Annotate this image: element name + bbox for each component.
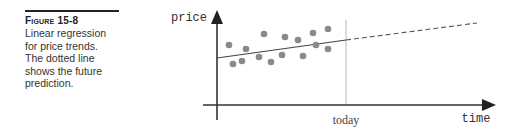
data-points [226, 26, 332, 68]
data-point [295, 37, 302, 44]
regression-chart: price time today [0, 0, 508, 133]
x-axis-label: time [462, 112, 491, 126]
y-axis-arrow-icon [211, 10, 223, 24]
data-point [279, 52, 286, 59]
x-axis-arrow-icon [482, 99, 496, 111]
today-label: today [333, 113, 360, 127]
data-point [282, 34, 289, 41]
data-point [256, 54, 263, 61]
data-point [325, 46, 332, 53]
prediction-line [346, 23, 477, 40]
data-point [300, 53, 307, 60]
data-point [239, 58, 246, 65]
data-point [325, 26, 332, 33]
data-point [230, 61, 237, 68]
data-point [243, 46, 250, 53]
data-point [226, 42, 233, 49]
data-point [313, 42, 320, 49]
data-point [261, 31, 268, 38]
data-point [310, 30, 317, 37]
y-axis-label: price [171, 11, 207, 25]
data-point [268, 59, 275, 66]
